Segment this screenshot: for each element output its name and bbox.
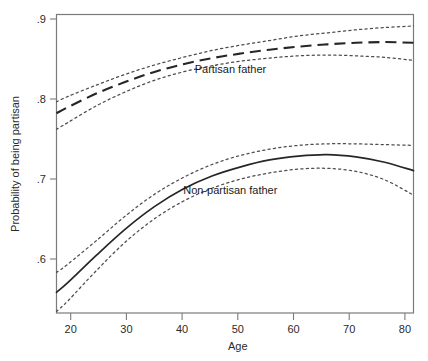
series-annotation-non-partisan-father: Non-partisan father <box>183 184 277 196</box>
x-tick-label-6: 80 <box>399 323 411 335</box>
x-tick-label-2: 40 <box>176 323 188 335</box>
y-axis-title: Probability of being partisan <box>9 96 21 232</box>
y-tick-label-3: .6 <box>37 253 46 265</box>
x-tick-label-1: 30 <box>120 323 132 335</box>
chart-background <box>0 0 428 361</box>
y-tick-label-1: .8 <box>37 93 46 105</box>
y-tick-label-2: .7 <box>37 173 46 185</box>
x-axis-title: Age <box>228 340 248 352</box>
y-tick-label-0: .9 <box>37 13 46 25</box>
x-tick-label-3: 50 <box>232 323 244 335</box>
series-annotation-partisan-father: Partisan father <box>195 63 267 75</box>
chart-figure: .9 .8 .7 .6 20 30 40 50 60 70 80 Age Pro… <box>0 0 428 361</box>
probability-of-being-partisan-line-chart: .9 .8 .7 .6 20 30 40 50 60 70 80 Age Pro… <box>0 0 428 361</box>
x-tick-label-0: 20 <box>65 323 77 335</box>
x-tick-label-5: 70 <box>343 323 355 335</box>
x-tick-label-4: 60 <box>287 323 299 335</box>
